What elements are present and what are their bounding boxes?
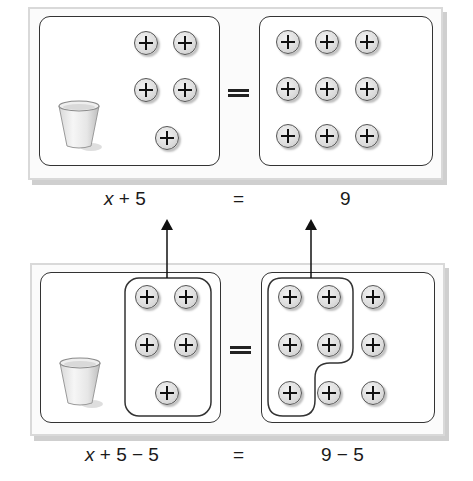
positive-counter <box>155 126 179 150</box>
positive-counter <box>278 333 302 357</box>
positive-counter <box>315 30 339 54</box>
positive-counter <box>278 285 302 309</box>
top-equation-left: x + 5 <box>104 189 146 209</box>
positive-counter <box>315 77 339 101</box>
cup-icon <box>56 355 106 411</box>
positive-counter <box>278 381 302 405</box>
positive-counter <box>276 77 300 101</box>
positive-counter <box>276 124 300 148</box>
arrow-left-head <box>161 219 173 230</box>
positive-counter <box>317 333 341 357</box>
positive-counter <box>276 30 300 54</box>
arrow-right-head <box>305 219 317 230</box>
positive-counter <box>174 285 198 309</box>
bottom-equation-equals: = <box>233 445 244 465</box>
positive-counter <box>155 381 179 405</box>
top-mat-equals-sign <box>228 89 249 97</box>
cup-icon <box>55 98 105 154</box>
bottom-mat-equals-sign <box>230 346 251 354</box>
top-equation-equals: = <box>233 189 244 209</box>
positive-counter <box>361 285 385 309</box>
positive-counter <box>317 285 341 309</box>
bottom-equation-right: 9 − 5 <box>321 445 364 465</box>
positive-counter <box>174 333 198 357</box>
positive-counter <box>135 333 159 357</box>
positive-counter <box>317 381 341 405</box>
positive-counter <box>361 381 385 405</box>
positive-counter <box>134 31 158 55</box>
positive-counter <box>355 124 379 148</box>
positive-counter <box>315 124 339 148</box>
positive-counter <box>361 333 385 357</box>
bottom-equation-left: x + 5 − 5 <box>85 445 159 465</box>
positive-counter <box>173 78 197 102</box>
positive-counter <box>135 285 159 309</box>
positive-counter <box>355 77 379 101</box>
positive-counter <box>355 30 379 54</box>
top-equation-right: 9 <box>340 189 351 209</box>
positive-counter <box>173 31 197 55</box>
positive-counter <box>134 78 158 102</box>
